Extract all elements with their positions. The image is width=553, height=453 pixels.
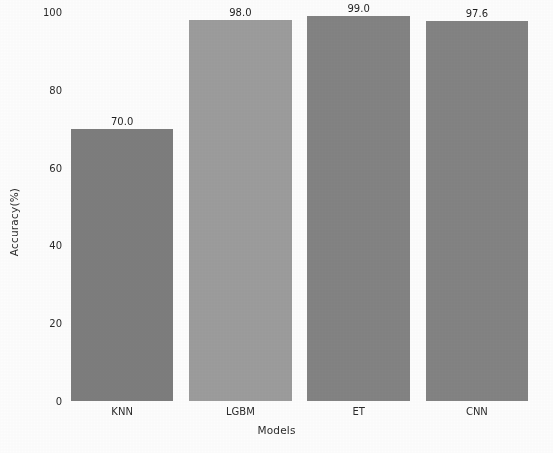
bar-knn [71,129,173,401]
bar-value-label: 99.0 [347,3,369,14]
x-axis-title: Models [0,424,553,436]
y-axis-tick-label: 40 [0,240,62,251]
bar-lgbm [189,20,291,401]
bar-cnn [426,21,528,401]
bar-value-label: 98.0 [229,7,251,18]
bar-et [307,16,409,401]
y-axis-tick-label: 100 [0,7,62,18]
x-axis-tick-label: LGBM [226,406,255,417]
y-axis-tick-label: 80 [0,84,62,95]
y-axis-tick-label: 0 [0,396,62,407]
x-axis-tick-label: KNN [111,406,133,417]
bar-chart-figure: Accuracy(%) 020406080100 70.098.099.097.… [0,0,553,453]
y-axis-tick-label: 60 [0,162,62,173]
plot-area: 70.098.099.097.6 [63,12,536,401]
x-axis-tick-label: CNN [466,406,488,417]
y-axis-tick-labels: 020406080100 [0,0,62,453]
y-axis-tick-label: 20 [0,318,62,329]
x-axis-tick-label: ET [352,406,364,417]
bar-value-label: 70.0 [111,116,133,127]
bar-value-label: 97.6 [466,8,488,19]
